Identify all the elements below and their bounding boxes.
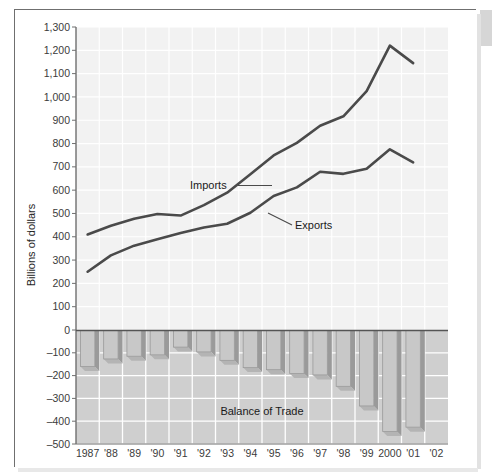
y-tick-label: 500 bbox=[52, 207, 70, 219]
y-tick-label: –200 bbox=[47, 369, 71, 381]
y-axis-upper-ticks: 01002003004005006007008009001,0001,1001,… bbox=[44, 21, 76, 336]
x-tick-label: '94 bbox=[244, 447, 258, 459]
x-tick-label: '89 bbox=[127, 447, 141, 459]
x-tick-label: '96 bbox=[290, 447, 304, 459]
y-tick-label: –100 bbox=[47, 346, 71, 358]
y-tick-label: 200 bbox=[52, 277, 70, 289]
y-axis-title: Billions of dollars bbox=[25, 203, 37, 286]
bar bbox=[266, 330, 285, 374]
bar bbox=[336, 330, 355, 391]
y-tick-label: 1,000 bbox=[44, 91, 70, 103]
x-tick-label: '95 bbox=[267, 447, 281, 459]
y-tick-label: –300 bbox=[47, 392, 71, 404]
y-tick-label: 1,100 bbox=[44, 67, 70, 79]
y-tick-label: 100 bbox=[52, 300, 70, 312]
bar bbox=[150, 330, 169, 359]
bar bbox=[290, 330, 309, 378]
y-tick-label: –500 bbox=[47, 438, 71, 450]
x-tick-label: '99 bbox=[360, 447, 374, 459]
bar bbox=[243, 330, 262, 372]
x-tick-label: 1987 bbox=[76, 447, 100, 459]
x-tick-label: '88 bbox=[104, 447, 118, 459]
x-tick-label: '01 bbox=[406, 447, 420, 459]
x-axis-ticks: 1987'88'89'90'91'92'93'94'95'96'97'98'99… bbox=[76, 447, 443, 459]
bar bbox=[104, 330, 123, 363]
y-tick-label: 1,200 bbox=[44, 44, 70, 56]
bar bbox=[173, 330, 192, 352]
x-tick-label: '98 bbox=[337, 447, 351, 459]
bar bbox=[406, 330, 425, 432]
x-tick-label: 2000 bbox=[378, 447, 402, 459]
y-tick-label: 700 bbox=[52, 160, 70, 172]
y-tick-label: 0 bbox=[64, 324, 70, 336]
bar bbox=[220, 330, 239, 365]
chart-svg: 01002003004005006007008009001,0001,1001,… bbox=[0, 0, 492, 476]
bar bbox=[313, 330, 332, 379]
imports-label: Imports bbox=[190, 179, 227, 191]
y-tick-label: 800 bbox=[52, 137, 70, 149]
bar bbox=[197, 330, 216, 356]
x-tick-label: '93 bbox=[220, 447, 234, 459]
x-tick-label: '92 bbox=[197, 447, 211, 459]
y-tick-label: 1,300 bbox=[44, 21, 70, 33]
y-tick-label: –400 bbox=[47, 415, 71, 427]
exports-label: Exports bbox=[295, 219, 333, 231]
x-tick-label: '90 bbox=[151, 447, 165, 459]
bar bbox=[383, 330, 402, 436]
y-tick-label: 900 bbox=[52, 114, 70, 126]
y-tick-label: 600 bbox=[52, 184, 70, 196]
y-tick-label: 400 bbox=[52, 230, 70, 242]
trade-chart-figure: 01002003004005006007008009001,0001,1001,… bbox=[0, 0, 492, 476]
bar bbox=[80, 330, 99, 371]
balance-of-trade-annotation: Balance of Trade bbox=[220, 405, 303, 417]
x-tick-label: '91 bbox=[174, 447, 188, 459]
bar bbox=[359, 330, 378, 410]
bar bbox=[127, 330, 146, 361]
x-tick-label: '02 bbox=[430, 447, 444, 459]
y-tick-label: 300 bbox=[52, 254, 70, 266]
x-tick-label: '97 bbox=[313, 447, 327, 459]
y-axis-lower-ticks: –100–200–300–400–500 bbox=[47, 346, 76, 449]
